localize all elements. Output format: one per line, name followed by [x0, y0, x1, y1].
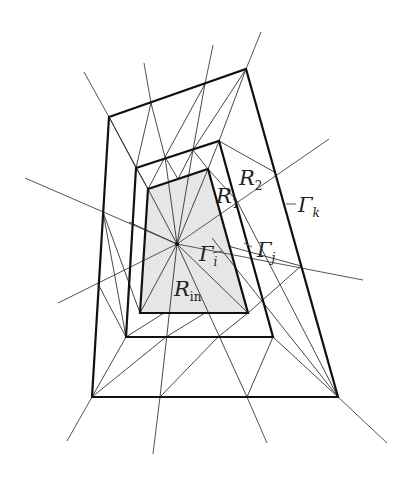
label-r-in-base: R [174, 277, 190, 301]
ray [246, 32, 261, 69]
label-gamma-j-base: Γ [257, 238, 272, 262]
label-r2-base: R [239, 166, 255, 190]
ray [153, 397, 160, 454]
label-gamma-j-sub: j [272, 251, 276, 265]
tri-line [126, 313, 164, 337]
label-gamma-j: Γj [257, 240, 275, 264]
tri-line [208, 141, 219, 169]
tri-line [160, 337, 218, 397]
tri-line [166, 313, 205, 337]
tri-line [237, 201, 338, 397]
tri-line [98, 284, 126, 337]
label-r1-base: R [216, 184, 232, 208]
label-gamma-k: Γk [298, 195, 320, 219]
label-gamma-k-sub: k [313, 206, 320, 220]
label-r-in: Rin [174, 279, 201, 303]
label-r2-sub: 2 [255, 179, 263, 193]
tri-line [103, 212, 140, 313]
tri-line [218, 313, 248, 337]
tri-line [151, 103, 165, 157]
tri-line [136, 168, 148, 189]
label-r1-sub: 1 [232, 197, 240, 211]
label-gamma-k-base: Γ [298, 193, 313, 217]
tri-line [103, 212, 126, 337]
tri-line [193, 150, 208, 169]
ray [144, 63, 151, 103]
tri-line [92, 337, 126, 397]
label-r2: R2 [239, 168, 262, 192]
label-gamma-i: Γi [199, 244, 217, 268]
tri-line [219, 69, 246, 141]
nested-region-diagram [0, 0, 416, 479]
tri-line [136, 103, 151, 168]
tri-line [92, 337, 166, 397]
ray [338, 397, 387, 443]
tri-line [247, 337, 273, 397]
ray [67, 397, 92, 441]
tri-line [193, 69, 246, 150]
ray [84, 72, 109, 117]
label-r1: R1 [216, 186, 239, 210]
ray [247, 397, 267, 443]
ray [205, 45, 213, 84]
center-point [175, 242, 179, 246]
label-gamma-i-sub: i [214, 255, 218, 269]
label-gamma-i-base: Γ [199, 242, 214, 266]
label-r-in-sub: in [190, 290, 202, 304]
tri-line [273, 337, 338, 397]
